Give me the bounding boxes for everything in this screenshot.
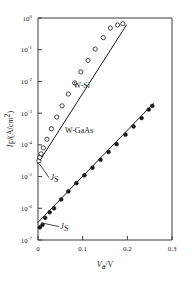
series-w-gaas: W-GaAs <box>38 104 154 230</box>
axis-labels-group: Va/VIF/(A/cm2) <box>3 110 113 271</box>
plot-frame <box>38 18 172 240</box>
data-point-marker <box>66 190 70 194</box>
data-point-marker <box>86 58 90 62</box>
x-tick-label: 0.3 <box>168 245 177 253</box>
plot-frame-path <box>38 18 172 240</box>
data-point-marker <box>79 70 83 74</box>
js-leader-line <box>40 164 50 178</box>
data-point-marker <box>43 216 47 220</box>
data-point-marker <box>49 127 53 131</box>
x-tick-label: 0.2 <box>123 245 132 253</box>
y-axis-ticks: 10010-110-210-310-410-510-610-7 <box>21 14 42 245</box>
y-tick-label: 100 <box>23 14 33 23</box>
data-point-marker <box>55 115 59 119</box>
y-tick-label: 10-2 <box>21 77 33 86</box>
data-point-marker <box>75 181 79 185</box>
data-point-marker <box>107 150 111 154</box>
data-point-marker <box>39 152 43 156</box>
y-tick-label: 10-4 <box>21 140 33 149</box>
y-tick-label: 10-3 <box>21 109 33 118</box>
iv-characteristic-chart: 00.10.20.3 10010-110-210-310-410-510-610… <box>0 0 193 284</box>
y-axis-label: IF/(A/cm2) <box>3 110 17 148</box>
fit-line <box>38 104 153 223</box>
figure-container: 00.10.20.3 10010-110-210-310-410-510-610… <box>0 0 193 284</box>
js-annotation-label: JS <box>60 222 68 233</box>
y-tick-label: 10-1 <box>21 45 33 54</box>
data-point-marker <box>115 23 119 27</box>
series-label-w-gaas: W-GaAs <box>65 126 93 135</box>
js-annotation-label: JS <box>51 173 59 184</box>
data-point-marker <box>140 116 144 120</box>
x-tick-label: 0.1 <box>78 245 87 253</box>
y-tick-label: 10-5 <box>21 172 33 181</box>
data-point-marker <box>99 158 103 162</box>
data-point-marker <box>60 104 64 108</box>
x-tick-label: 0 <box>36 245 40 253</box>
data-series-group: W-SiW-GaAs <box>37 22 154 230</box>
data-point-marker <box>83 173 87 177</box>
data-point-marker <box>132 125 136 129</box>
data-point-marker <box>41 146 45 150</box>
y-tick-label: 10-7 <box>21 236 33 245</box>
annotations-group: JSJS <box>40 164 69 233</box>
data-point-marker <box>101 36 105 40</box>
data-point-marker <box>48 210 52 214</box>
data-point-marker <box>150 104 154 108</box>
x-axis-ticks: 00.10.20.3 <box>36 236 177 253</box>
data-point-marker <box>108 26 112 30</box>
data-point-marker <box>121 22 125 26</box>
data-point-marker <box>93 47 97 51</box>
data-point-marker <box>59 198 63 202</box>
x-axis-label: Va/V <box>97 260 114 271</box>
y-tick-label: 10-6 <box>21 204 33 213</box>
data-point-marker <box>66 92 70 96</box>
data-point-marker <box>147 108 151 112</box>
data-point-marker <box>52 206 56 210</box>
series-label-w-si: W-Si <box>74 81 91 90</box>
data-point-marker <box>91 166 95 170</box>
data-point-marker <box>115 142 119 146</box>
series-w-si: W-Si <box>37 22 127 164</box>
fit-line <box>38 25 126 163</box>
data-point-marker <box>124 133 128 137</box>
data-point-marker <box>45 137 49 141</box>
